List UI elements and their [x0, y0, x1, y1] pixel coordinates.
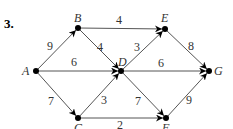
edge-weight-e-g: 8	[188, 39, 194, 53]
edge-weight-a-b: 9	[47, 39, 53, 53]
edge-weight-c-f: 2	[117, 118, 123, 129]
edge-d-e	[121, 31, 163, 71]
problem-number: 3.	[4, 16, 14, 31]
node-e-dot	[162, 26, 168, 32]
edge-weight-d-e: 3	[134, 40, 140, 54]
node-label-b: B	[74, 11, 82, 25]
edge-e-g	[165, 29, 207, 69]
edge-weight-d-f: 7	[135, 94, 141, 108]
edge-weight-a-c: 7	[48, 94, 54, 108]
edge-weight-c-d: 3	[101, 93, 107, 107]
directed-graph-diagram: 3. 967443236789 ABCDEFG	[0, 0, 233, 129]
edge-a-c	[36, 71, 76, 116]
edge-c-d	[78, 73, 119, 118]
edge-a-b	[36, 30, 76, 71]
node-label-a: A	[21, 64, 30, 78]
node-label-g: G	[214, 64, 223, 78]
edge-b-e	[78, 28, 162, 29]
node-label-c: C	[74, 121, 83, 129]
node-g-dot	[206, 68, 212, 74]
node-label-f: F	[161, 121, 170, 129]
edge-weight-d-g: 6	[158, 56, 164, 70]
edge-weight-f-g: 9	[186, 93, 192, 107]
node-b-dot	[75, 25, 81, 31]
edge-weight-b-e: 4	[116, 13, 122, 27]
node-a-dot	[33, 68, 39, 74]
node-label-d: D	[117, 55, 127, 69]
node-label-e: E	[160, 11, 169, 25]
edge-weight-b-d: 4	[97, 40, 103, 54]
edge-d-f	[121, 71, 164, 116]
edge-weight-a-d: 6	[71, 55, 77, 69]
